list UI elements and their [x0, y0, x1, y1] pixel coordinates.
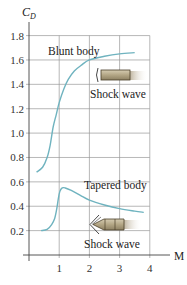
drag-coefficient-chart: 0.20.40.60.81.01.21.41.61.81234 CD M Blu… [0, 0, 187, 285]
tapered-body-label: Tapered body [84, 179, 147, 192]
x-tick-label: 2 [87, 262, 93, 274]
y-tick-label: 1.6 [10, 54, 24, 66]
blunt-projectile-icon [97, 68, 149, 82]
x-tick-label: 4 [147, 262, 153, 274]
y-tick-label: 0.2 [10, 225, 24, 237]
shock-wave-label-bottom: Shock wave [84, 238, 140, 250]
x-tick-label: 3 [117, 262, 123, 274]
y-tick-label: 0.6 [10, 176, 24, 188]
blunt-body-label: Blunt body [48, 45, 100, 58]
y-tick-label: 1.8 [10, 30, 24, 42]
y-axis-label: CD [22, 5, 36, 21]
y-tick-label: 0.8 [10, 151, 24, 163]
x-tick-label: 1 [56, 262, 62, 274]
x-axis-label: M [174, 250, 184, 262]
y-tick-label: 1.4 [10, 78, 24, 90]
tapered-projectile-icon [90, 215, 142, 234]
y-tick-label: 0.4 [10, 200, 24, 212]
y-tick-label: 1.2 [10, 103, 24, 115]
shock-wave-label-top: Shock wave [90, 88, 146, 100]
y-tick-label: 1.0 [10, 127, 24, 139]
